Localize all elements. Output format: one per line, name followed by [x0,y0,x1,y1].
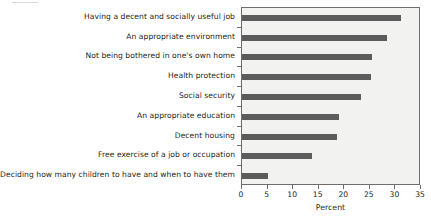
bar [242,94,361,100]
category-label: An appropriate environment [0,33,235,41]
bar [242,15,401,21]
y-axis-tick [237,126,241,127]
bar [242,54,372,60]
y-axis-tick [237,165,241,166]
y-axis-tick [237,86,241,87]
y-axis-tick [237,66,241,67]
bar [242,134,337,140]
x-axis-tick [267,185,268,189]
bar [242,74,371,80]
category-label: Having a decent and socially useful job [0,13,235,21]
x-axis-tick [343,185,344,189]
x-axis-tick [369,185,370,189]
x-axis-tick [241,185,242,189]
category-label: An appropriate education [0,112,235,120]
x-axis-tick-label: 30 [390,190,400,199]
x-axis-tick-label: 0 [239,190,244,199]
bar [242,114,339,120]
category-label: Deciding how many children to have and w… [0,171,235,179]
bar-chart: Having a decent and socially useful jobA… [0,0,431,219]
y-axis-tick [237,145,241,146]
category-axis-labels: Having a decent and socially useful jobA… [0,0,239,184]
x-axis-tick-label: 5 [264,190,269,199]
x-axis-tick-label: 15 [313,190,323,199]
bar [242,35,387,41]
bar [242,153,312,159]
category-label: Social security [0,92,235,100]
y-axis-tick [237,27,241,28]
x-axis-tick-label: 35 [415,190,425,199]
plot-area [241,7,420,185]
x-axis-tick-label: 25 [364,190,374,199]
x-axis-tick [394,185,395,189]
category-label: Not being bothered in one's own home [0,52,235,60]
bars-container [242,8,419,184]
y-axis-tick [237,106,241,107]
category-label: Free exercise of a job or occupation [0,151,235,159]
x-axis-tick [420,185,421,189]
x-axis-title: Percent [241,203,420,212]
bar [242,173,268,179]
x-axis-tick-label: 20 [338,190,348,199]
category-label: Health protection [0,72,235,80]
category-label: Decent housing [0,132,235,140]
x-axis-tick [318,185,319,189]
x-axis-tick-label: 10 [287,190,297,199]
y-axis-tick [237,47,241,48]
x-axis-tick [292,185,293,189]
